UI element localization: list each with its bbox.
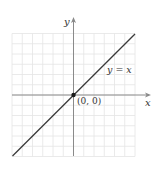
- origin-label: (0, 0): [77, 96, 101, 106]
- y-axis-label: y: [63, 16, 70, 27]
- x-axis-label: x: [145, 97, 151, 108]
- coordinate-plane-figure: y x y = x (0, 0): [0, 0, 163, 182]
- origin-point: [71, 93, 75, 97]
- line-label: y = x: [106, 64, 132, 75]
